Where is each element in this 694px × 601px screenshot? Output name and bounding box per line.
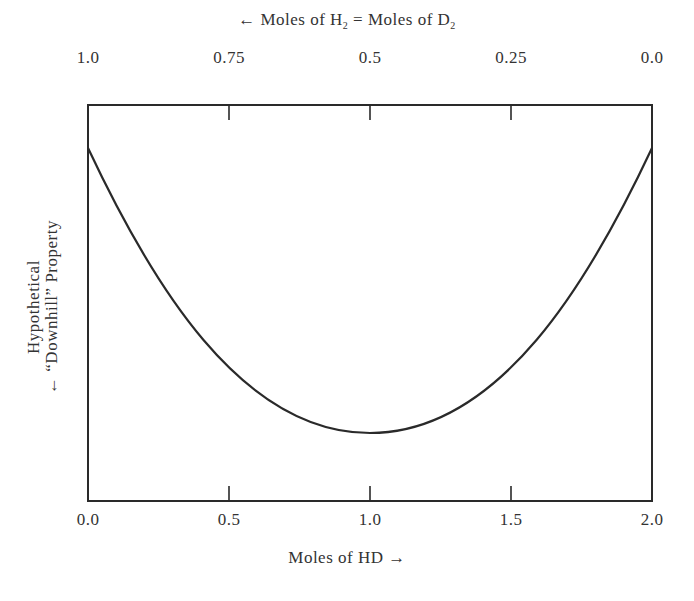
x-tick-label: 0.0 [77,510,100,530]
y-axis-label-line1: Hypothetical [25,220,43,394]
x-tick-label: 1.0 [359,510,382,530]
x-tick-label: 0.5 [218,510,241,530]
plot-area [0,0,694,601]
y-axis-label: Hypothetical ← “Downhill” Property [25,220,61,394]
x-axis-title: Moles of HD → [0,548,694,568]
y-axis-label-line2: ← “Downhill” Property [43,220,61,394]
property-curve [88,148,652,433]
x-tick-label: 1.5 [500,510,523,530]
x-tick-label: 2.0 [641,510,664,530]
plot-frame [88,105,652,501]
bottom-ticks [229,486,511,501]
top-ticks [229,105,511,120]
